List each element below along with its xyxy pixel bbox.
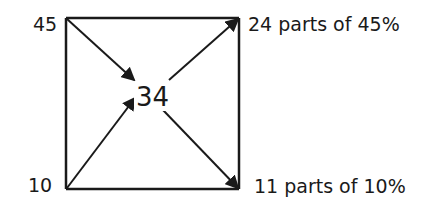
arrow-bottom-left-to-center: [67, 98, 135, 188]
bottom-right-result: 11 parts of 10%: [254, 175, 406, 197]
arrow-center-to-bottom-right: [163, 110, 238, 188]
top-left-value: 45: [33, 13, 57, 35]
arrow-center-to-top-right: [169, 19, 238, 80]
top-right-result: 24 parts of 45%: [248, 13, 400, 35]
bottom-left-value: 10: [28, 174, 52, 196]
center-mean-value: 34: [134, 83, 171, 111]
arrow-top-left-to-center: [67, 19, 134, 80]
